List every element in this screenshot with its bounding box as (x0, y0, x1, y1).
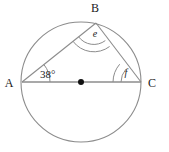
geometry-canvas: A B C 38° e f (0, 0, 169, 152)
angle-arc-B-outer (73, 41, 110, 51)
angle-label-B: e (93, 28, 98, 39)
circle-center-dot (78, 79, 84, 85)
angle-label-A: 38° (40, 68, 55, 80)
geometry-figure: A B C 38° e f (0, 0, 169, 152)
angle-label-C: f (125, 67, 129, 78)
segment-BC (96, 23, 141, 82)
vertex-label-B: B (91, 1, 99, 15)
vertex-label-C: C (148, 76, 156, 90)
angle-arc-C-outer (113, 64, 120, 82)
segment-AB (22, 23, 96, 82)
vertex-label-A: A (5, 76, 14, 90)
